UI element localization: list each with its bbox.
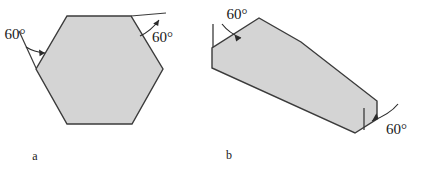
panel-b-group: 60° 60° b [212, 6, 407, 162]
angle-label-b-left: 60° [227, 6, 248, 22]
hexagon-shape-a [36, 16, 163, 124]
figure-container: 60° 60° a 60° [0, 0, 429, 175]
figure-svg: 60° 60° a 60° [0, 0, 429, 175]
angle-label-a-left: 60° [5, 26, 26, 42]
slab-shape-b [212, 18, 377, 133]
panel-a-group: 60° 60° a [5, 13, 174, 163]
angle-extension-line-a-right [131, 13, 166, 16]
panel-caption-b: b [226, 148, 232, 162]
angle-label-b-right: 60° [386, 121, 407, 137]
angle-label-a-right: 60° [152, 29, 173, 45]
panel-caption-a: a [32, 149, 38, 163]
